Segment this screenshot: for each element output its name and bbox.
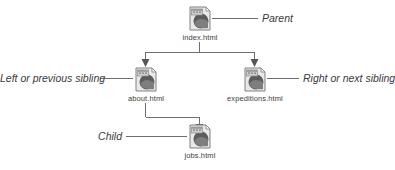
node-label: about.html [101,94,191,103]
arrowhead-expeditions [251,59,259,67]
html-document-icon [242,67,268,93]
callout-left-sibling: Left or previous sibling [0,72,96,84]
node-expeditions[interactable]: expeditions.html [210,67,300,103]
html-document-icon [187,124,213,150]
callout-right-sibling: Right or next sibling [303,72,395,84]
node-jobs[interactable]: jobs.html [155,124,245,160]
html-document-icon [187,6,213,32]
node-label: index.html [155,33,245,42]
node-label: expeditions.html [210,94,300,103]
callout-parent: Parent [262,12,293,24]
arrowhead-about [142,59,150,67]
html-document-icon [133,67,159,93]
node-about[interactable]: about.html [101,67,191,103]
node-index[interactable]: index.html [155,6,245,42]
callout-child: Child [60,130,122,142]
node-label: jobs.html [155,151,245,160]
